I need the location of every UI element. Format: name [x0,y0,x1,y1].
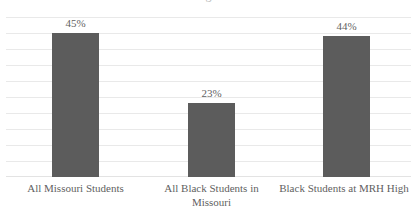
category-label-all-black-students-in-missouri: All Black Students in Missouri [146,181,277,209]
category-label-line: Black Students at MRH High [277,181,411,195]
category-label-all-missouri-students: All Missouri Students [10,181,141,195]
bar-black-students-at-mrh-high[interactable] [323,36,370,177]
category-label-line: All Missouri Students [10,181,141,195]
category-label-line: All Black Students in [146,181,277,195]
category-label-line: Missouri [146,195,277,209]
bar-chart: g 45% 23% 44% All Missouri Students [0,0,417,218]
bar-all-black-students-in-missouri[interactable] [188,103,235,177]
data-label-black-students-at-mrh-high: 44% [316,20,377,33]
data-label-all-missouri-students: 45% [45,17,106,30]
plot-area: 45% 23% 44% [6,17,411,177]
data-label-all-black-students-in-missouri: 23% [181,87,242,100]
category-axis: All Missouri Students All Black Students… [6,181,411,217]
bar-all-missouri-students[interactable] [52,33,99,177]
chart-title-clipped: g [0,0,417,2]
category-label-black-students-at-mrh-high: Black Students at MRH High [277,181,411,195]
